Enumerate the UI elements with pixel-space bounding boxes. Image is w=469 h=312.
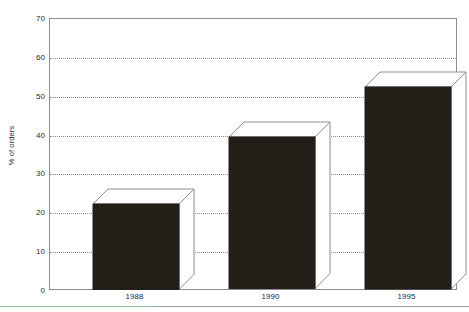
- y-axis-tick-label: 30: [5, 169, 45, 178]
- y-axis-tick-label: 60: [5, 52, 45, 61]
- y-axis-tick-label: 0: [5, 286, 45, 295]
- chart-figure: % of orders 010203040506070 198819901995: [0, 0, 469, 312]
- gridline: [50, 136, 456, 137]
- plot-area: [49, 18, 457, 290]
- gridline: [50, 252, 456, 253]
- gridline: [50, 58, 456, 59]
- y-axis-tick-label: 20: [5, 208, 45, 217]
- x-axis-tick-label: 1988: [126, 292, 144, 301]
- y-axis-tick-label: 10: [5, 247, 45, 256]
- footer-rule-accent: [0, 306, 155, 307]
- x-axis-tick-label: 1990: [262, 292, 280, 301]
- y-axis-tick-label: 70: [5, 14, 45, 23]
- gridline: [50, 213, 456, 214]
- y-axis-tick-label: 40: [5, 130, 45, 139]
- y-axis-tick-label: 50: [5, 91, 45, 100]
- y-axis-tick-labels: 010203040506070: [0, 18, 45, 290]
- gridline: [50, 174, 456, 175]
- x-axis-tick-label: 1995: [398, 292, 416, 301]
- gridline: [50, 97, 456, 98]
